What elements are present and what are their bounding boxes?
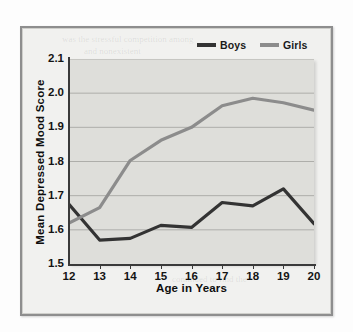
y-tick-label: 1.9 [48,122,64,134]
y-axis-line [68,57,70,266]
x-tick-mark [161,264,162,269]
plot-svg [69,59,314,264]
plot-area [69,59,314,264]
y-tick-label: 2.1 [48,53,64,65]
x-tick-mark [222,264,223,269]
y-tick-label: 1.7 [48,190,64,202]
y-tick-label: 1.8 [48,156,64,168]
legend-label-boys: Boys [220,40,246,51]
x-tick-label: 20 [308,271,321,283]
x-tick-mark [130,264,131,269]
x-tick-mark [314,264,315,269]
legend-item-girls[interactable]: Girls [260,40,307,51]
legend-item-boys[interactable]: Boys [197,40,246,51]
x-tick-mark [100,264,101,269]
y-axis-title: Mean Depressed Mood Score [32,59,48,264]
series-line-girls [69,98,314,223]
x-tick-mark [192,264,193,269]
legend-swatch-girls [260,43,279,47]
page-background: was the stressful competition among and … [0,0,353,332]
gridlines [69,59,314,230]
y-tick-label: 1.6 [48,224,64,236]
figure-frame: was the stressful competition among and … [20,26,333,316]
legend-label-girls: Girls [283,40,307,51]
x-tick-label: 16 [185,271,198,283]
x-axis-title: Age in Years [69,282,314,294]
y-tick-label: 1.5 [48,258,64,270]
legend-swatch-boys [197,43,216,47]
x-tick-label: 17 [216,271,229,283]
y-axis-title-text: Mean Depressed Mood Score [34,79,46,244]
x-tick-label: 14 [124,271,137,283]
x-tick-label: 19 [277,271,290,283]
x-tick-label: 18 [246,271,259,283]
chart-legend: Boys Girls [197,40,308,51]
x-tick-label: 12 [63,271,76,283]
series-lines [69,98,314,240]
x-tick-label: 15 [154,271,167,283]
x-tick-mark [253,264,254,269]
y-tick-label: 2.0 [48,87,64,99]
x-tick-label: 13 [93,271,106,283]
x-tick-mark [283,264,284,269]
plot-wrapper: 2.12.01.91.81.71.61.5 121314151617181920 [69,59,314,266]
